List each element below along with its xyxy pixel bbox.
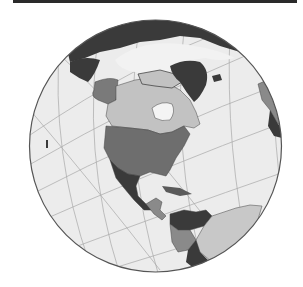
- hawaii: [46, 140, 48, 148]
- globe-map: [0, 0, 303, 287]
